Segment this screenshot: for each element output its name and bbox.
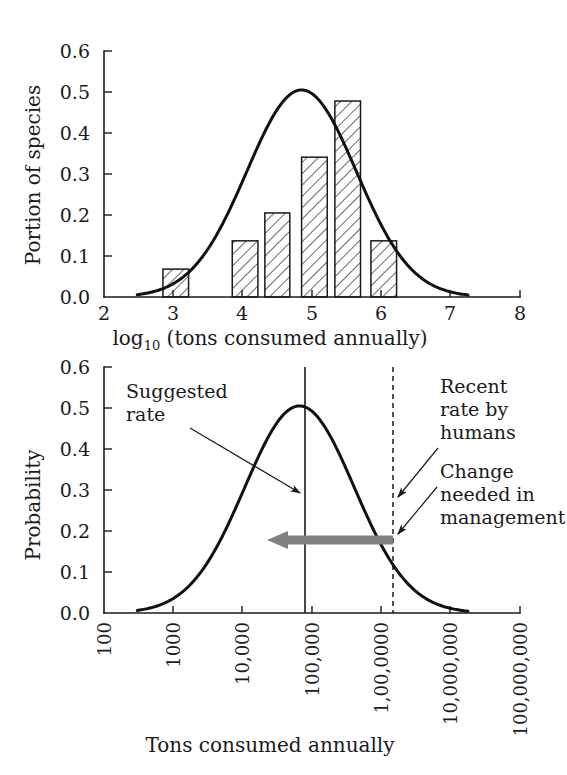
top-panel-xtick-4: 4: [236, 302, 248, 324]
bottom-panel-xtick-10000000: 10,000,000: [440, 622, 461, 725]
top-panel-x-axis-title-base: log: [112, 326, 143, 350]
histogram-bar-hatch: [265, 213, 290, 297]
top-panel-xtick-3: 3: [167, 302, 179, 324]
figure-root: Portion of species 0.0 0.1 0.2 0.3 0.4 0…: [0, 0, 567, 775]
top-panel-xtick-5: 5: [306, 302, 318, 324]
histogram-bar-hatch: [232, 241, 258, 297]
bottom-panel-ytick-5: 0.5: [60, 397, 90, 419]
top-panel-ytick-1: 0.1: [60, 245, 90, 267]
recent-rate-label-line2: rate by: [440, 398, 508, 420]
change-arrow-head: [267, 531, 288, 549]
recent-rate-label-line3: humans: [440, 421, 516, 443]
change-label-line2: needed in: [440, 483, 535, 505]
top-panel-x-axis-title: log10 (tons consumed annually): [112, 326, 427, 353]
top-panel-ytick-5: 0.5: [60, 81, 90, 103]
bottom-panel-y-axis-title: Probability: [21, 449, 45, 561]
change-leader: [398, 487, 437, 534]
bottom-panel-xtick-10000: 10,000: [232, 622, 253, 685]
bottom-panel-x-axis-title: Tons consumed annually: [145, 733, 395, 757]
top-panel-xtick-7: 7: [444, 302, 456, 324]
top-panel: Portion of species 0.0 0.1 0.2 0.3 0.4 0…: [21, 40, 526, 353]
top-panel-ytick-4: 0.4: [60, 122, 90, 144]
figure-svg: Portion of species 0.0 0.1 0.2 0.3 0.4 0…: [0, 0, 567, 775]
top-panel-ytick-6: 0.6: [60, 40, 90, 62]
top-panel-ytick-3: 0.3: [60, 163, 90, 185]
suggested-rate-label-line2: rate: [126, 403, 165, 425]
bottom-panel-ytick-3: 0.3: [60, 479, 90, 501]
top-panel-x-axis-title-rest: (tons consumed annually): [160, 326, 427, 350]
bottom-panel-xtick-100: 100: [94, 622, 115, 656]
top-panel-x-axis-title-sub: 10: [144, 338, 161, 353]
suggested-rate-label-line1: Suggested: [126, 380, 228, 402]
top-panel-xtick-8: 8: [514, 302, 526, 324]
top-panel-ytick-0: 0.0: [60, 286, 90, 308]
top-panel-y-axis-title: Portion of species: [21, 85, 45, 265]
bottom-panel-xtick-1000: 1000: [163, 622, 184, 668]
change-label-line1: Change: [440, 460, 514, 482]
bottom-panel-xtick-100000: 100,000: [302, 622, 323, 696]
change-label-line3: management: [440, 506, 566, 528]
bottom-panel-ytick-4: 0.4: [60, 438, 90, 460]
top-panel-xtick-2: 2: [98, 302, 110, 324]
recent-rate-leader: [398, 448, 438, 497]
bottom-panel-xtick-1000000: 1,00,0000: [371, 622, 392, 714]
top-panel-xtick-6: 6: [375, 302, 387, 324]
bottom-panel-ytick-1: 0.1: [60, 561, 90, 583]
top-panel-bars: [163, 101, 397, 297]
histogram-bar-hatch: [371, 241, 397, 297]
histogram-bar-hatch: [302, 157, 328, 297]
top-panel-ytick-2: 0.2: [60, 204, 90, 226]
bottom-panel: Probability 0.0 0.1 0.2 0.3 0.4 0.5 0.6 …: [21, 356, 566, 757]
recent-rate-label-line1: Recent: [440, 375, 508, 397]
bottom-panel-ytick-0: 0.0: [60, 602, 90, 624]
bottom-panel-ytick-2: 0.2: [60, 520, 90, 542]
bottom-panel-xtick-100000000: 100,000,000: [510, 622, 531, 737]
bottom-panel-ytick-6: 0.6: [60, 356, 90, 378]
